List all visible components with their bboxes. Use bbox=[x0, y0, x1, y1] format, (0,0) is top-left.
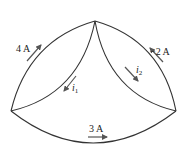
label-i2: i2 bbox=[136, 64, 143, 77]
label-4A: 4 A bbox=[16, 43, 31, 54]
circuit-diagram: 4 A −2 A 3 A i1 i2 bbox=[0, 0, 187, 153]
branch-inner-left bbox=[11, 21, 95, 111]
branch-outer-left bbox=[11, 21, 95, 111]
label-3A: 3 A bbox=[89, 123, 104, 134]
label-neg2A: −2 A bbox=[150, 46, 171, 57]
label-i1: i1 bbox=[72, 82, 79, 95]
